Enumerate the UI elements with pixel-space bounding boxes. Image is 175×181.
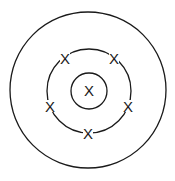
- electron-mark-middle-top-left: X: [60, 50, 70, 67]
- electron-mark-middle-bottom: X: [83, 125, 93, 142]
- shell-diagram: XXXXXX: [0, 0, 175, 181]
- electron-mark-inner: X: [84, 82, 94, 99]
- electron-mark-middle-top-right: X: [109, 50, 119, 67]
- electron-mark-middle-left: X: [45, 98, 55, 115]
- electron-mark-middle-right: X: [123, 98, 133, 115]
